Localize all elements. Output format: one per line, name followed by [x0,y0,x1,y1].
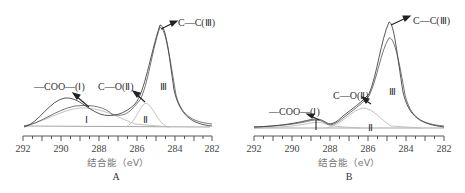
chart-panel-a: 292 290 288 286 284 282 结合能（eV） A —COO—(… [0,0,232,193]
fit-peak-1-b [254,122,361,128]
tick-label: 282 [205,143,220,154]
x-axis-title-a: 结合能（eV） [87,157,149,168]
region-label-3: Ⅲ [160,81,167,92]
tick-label: 286 [361,143,376,154]
tick-label: 288 [92,143,107,154]
x-axis-title-b: 结合能（eV） [318,157,380,168]
xps-spectrum-a: 292 290 288 286 284 282 结合能（eV） A —COO—(… [0,0,232,193]
region-label-2: Ⅱ [143,114,148,125]
annotation-coo: —COO—(Ⅰ) [33,81,85,93]
annotation-cc: C—C(Ⅲ) [413,15,450,27]
baseline-a [24,126,210,127]
region-label-1: Ⅰ [85,114,88,125]
envelope-curve-a [24,27,212,126]
xps-spectrum-b: 292 290 288 286 284 282 结合能（eV） B —COO—(… [231,0,465,193]
tick-label: 292 [247,143,262,154]
annotation-cc: C—C(Ⅲ) [178,17,215,29]
chart-panel-b: 292 290 288 286 284 282 结合能（eV） B —COO—(… [231,0,463,193]
arrowhead-icon [170,21,177,26]
tick-label: 290 [54,143,69,154]
tick-label: 288 [323,143,338,154]
tick-label: 284 [399,143,414,154]
tick-labels-b: 292 290 288 286 284 282 [247,143,452,154]
tick-labels-a: 292 290 288 286 284 282 [16,143,220,154]
curves-a [24,25,212,127]
tick-label: 286 [130,143,145,154]
tick-label: 290 [285,143,300,154]
tick-label: 292 [16,143,31,154]
annotation-co: C—O(Ⅱ) [98,81,134,93]
x-axis-b [254,136,444,141]
annotation-arrows-a [73,21,177,107]
panel-label-a: A [112,171,120,182]
region-label-3: Ⅲ [389,86,396,97]
panel-label-b: B [346,171,353,182]
annotation-co: C—O(Ⅱ) [333,90,369,102]
region-label-2: Ⅱ [368,122,373,133]
tick-label: 284 [168,143,183,154]
x-axis-a [23,136,212,141]
annotation-arrows-b [307,16,410,130]
arrowhead-icon [403,16,410,21]
tick-label: 282 [437,143,452,154]
